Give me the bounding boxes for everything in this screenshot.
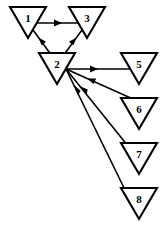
node-6[interactable]: 6 — [121, 98, 157, 129]
edge-7-to-2-arrowhead-icon — [80, 86, 88, 94]
edge-7-to-2-line — [66, 69, 128, 146]
edge-1-to-3 — [36, 20, 80, 27]
edge-2-to-5-arrowhead-icon — [90, 66, 98, 73]
edge-6-to-2-line — [66, 69, 133, 99]
node-8-label: 8 — [136, 193, 142, 205]
edge-6-to-2-arrowhead-icon — [87, 78, 96, 84]
node-2-label: 2 — [54, 58, 60, 70]
edge-6-to-2 — [66, 69, 133, 99]
edge-1-to-3-arrowhead-icon — [54, 20, 62, 27]
node-1-label: 1 — [25, 12, 31, 24]
edge-7-to-2 — [66, 69, 128, 146]
node-7[interactable]: 7 — [121, 143, 157, 174]
node-3-label: 3 — [84, 12, 90, 24]
node-8[interactable]: 8 — [121, 188, 157, 219]
edge-2-to-5 — [66, 66, 132, 73]
node-7-label: 7 — [136, 148, 142, 160]
edge-8-to-2 — [66, 69, 126, 192]
edge-layer — [33, 20, 133, 193]
node-6-label: 6 — [136, 103, 142, 115]
edge-2-to-1-arrowhead-icon — [39, 38, 47, 46]
diagram-canvas: 1 3 2 5 6 7 — [0, 0, 163, 231]
node-layer: 1 3 2 5 6 7 — [10, 7, 157, 219]
edge-2-to-3-arrowhead-icon — [69, 38, 77, 46]
triangle-network-diagram: 1 3 2 5 6 7 — [0, 0, 163, 231]
node-5-label: 5 — [136, 58, 142, 70]
